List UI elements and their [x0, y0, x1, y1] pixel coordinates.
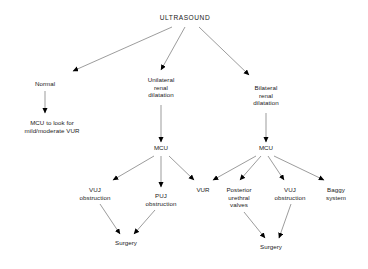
edge-ultrasound-normal — [73, 27, 172, 71]
edge-mcu-unilateral-vur — [169, 156, 194, 180]
node-mcu-unilateral[interactable]: MCU — [154, 144, 168, 152]
node-unilateral-renal-dilatation[interactable]: Unilateral renal dilatation — [148, 76, 175, 99]
node-puj-obstruction[interactable]: PUJ obstruction — [146, 192, 177, 207]
node-ultrasound[interactable]: ULTRASOUND — [160, 14, 210, 22]
node-normal[interactable]: Normal — [35, 80, 55, 88]
edge-mcu-bilateral-vur — [213, 156, 256, 180]
edge-layer — [0, 0, 368, 269]
edge-ultrasound-unilateral — [161, 27, 185, 70]
edge-puv-surgery — [244, 212, 265, 238]
flowchart-canvas: ULTRASOUND Normal Unilateral renal dilat… — [0, 0, 368, 269]
node-vuj-obstruction-left[interactable]: VUJ obstruction — [80, 186, 111, 201]
node-vuj-obstruction-right[interactable]: VUJ obstruction — [275, 186, 306, 201]
node-surgery-left[interactable]: Surgery — [115, 239, 137, 247]
edge-mcu-unilateral-vuj — [113, 156, 154, 180]
node-bilateral-renal-dilatation[interactable]: Bilateral renal dilatation — [253, 84, 278, 107]
edge-mcu-bilateral-vuj — [268, 156, 284, 180]
edge-mcu-bilateral-baggy — [274, 156, 324, 180]
node-vur[interactable]: VUR — [196, 186, 209, 194]
edge-mcu-bilateral-puv — [240, 156, 261, 180]
node-posterior-urethral-valves[interactable]: Posterior urethral valves — [226, 186, 251, 209]
node-mcu-bilateral[interactable]: MCU — [259, 144, 273, 152]
node-surgery-right[interactable]: Surgery — [260, 243, 282, 251]
node-mcu-mild-moderate-vur[interactable]: MCU to look for mild/moderate VUR — [25, 119, 80, 134]
edge-ultrasound-bilateral — [199, 27, 249, 75]
edge-puj-surgery — [134, 210, 155, 234]
edge-vuj-right-surgery — [279, 204, 291, 238]
node-baggy-system[interactable]: Baggy system — [326, 186, 346, 201]
edge-vuj-left-surgery — [100, 204, 120, 234]
